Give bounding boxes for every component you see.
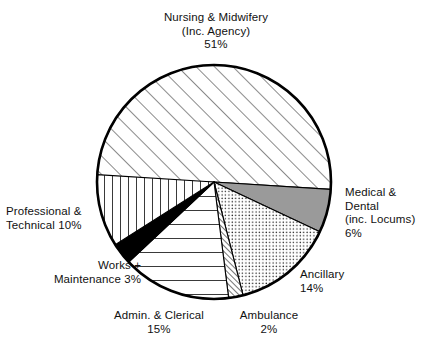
slice-label-ambulance: Ambulance 2% — [216, 309, 322, 336]
slice-label-admin-clerical: Admin. & Clerical 15% — [95, 309, 223, 336]
slice-label-professional-technical: Professional & Technical 10% — [6, 205, 134, 232]
slice-label-ancillary: Ancillary 14% — [300, 268, 386, 295]
slice-label-nursing: Nursing & Midwifery (Inc. Agency) 51% — [131, 11, 301, 52]
pie-chart-figure: Nursing & Midwifery (Inc. Agency) 51%Med… — [0, 0, 431, 347]
pie-slice-nursing[interactable]: Nursing & Midwifery (Inc. Agency) 51% — [97, 65, 331, 189]
slice-label-medical-dental: Medical & Dental (inc. Locums) 6% — [345, 186, 431, 240]
slice-label-works-maintenance: Works + Maintenance 3% — [8, 259, 141, 286]
